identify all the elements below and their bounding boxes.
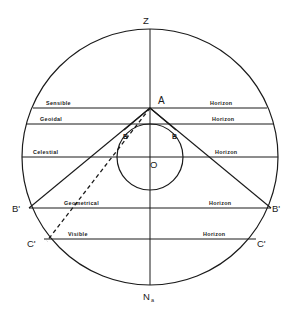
geometrical-horizon-label: Geometrical	[64, 200, 99, 206]
celestial-horizon-right-label: Horizon	[215, 149, 238, 155]
nadir-subscript-label: a	[151, 297, 155, 303]
visible-right-point-label: C'	[257, 238, 266, 249]
horizon-diagram-figure: Sensible Geoidal Celestial Geometrical V…	[0, 0, 290, 314]
tangent-point-right-label: B	[172, 133, 177, 140]
tangent-point-left-label: B	[123, 133, 128, 140]
visible-horizon-right-label: Horizon	[203, 231, 226, 237]
visible-horizon-label: Visible	[68, 231, 88, 237]
horizon-diagram-canvas: Sensible Geoidal Celestial Geometrical V…	[0, 0, 290, 314]
zenith-point-label: Z	[143, 15, 149, 26]
sensible-horizon-right-label: Horizon	[210, 100, 233, 106]
nadir-point-label: N	[143, 291, 150, 302]
observer-point-label: A	[158, 95, 165, 106]
earth-center-label: O	[150, 159, 157, 170]
geometrical-left-point-label: B'	[12, 203, 20, 214]
geoidal-horizon-label: Geoidal	[40, 116, 62, 122]
celestial-horizon-label: Celestial	[33, 149, 58, 155]
geometrical-horizon-right-label: Horizon	[209, 200, 232, 206]
visible-left-point-label: C'	[27, 238, 36, 249]
geometrical-right-point-label: B'	[272, 203, 280, 214]
sensible-horizon-label: Sensible	[46, 100, 71, 106]
geoidal-horizon-right-label: Horizon	[212, 116, 235, 122]
